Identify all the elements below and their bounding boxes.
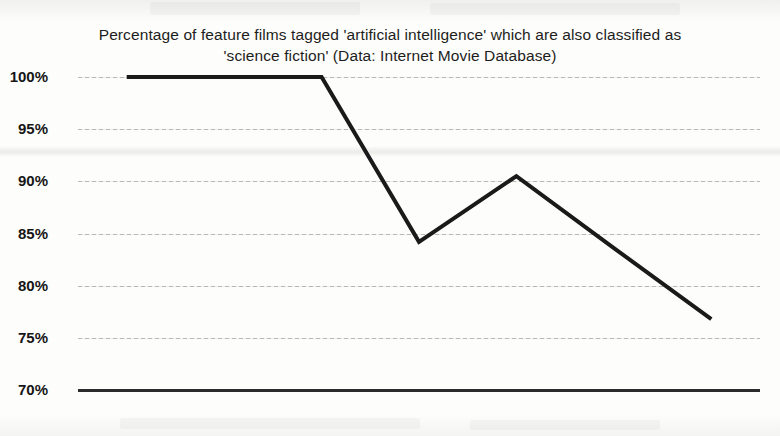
y-axis-tick-label: 95% xyxy=(0,120,48,137)
gridline xyxy=(78,286,760,287)
gridline xyxy=(78,234,760,235)
scan-artifact-ghost xyxy=(470,420,660,430)
y-axis-tick-label: 90% xyxy=(0,172,48,189)
scan-artifact-bottom xyxy=(0,414,780,436)
y-axis-tick-label: 75% xyxy=(0,329,48,346)
gridline xyxy=(78,338,760,339)
x-axis-baseline xyxy=(78,389,760,392)
scan-artifact-ghost xyxy=(150,2,360,15)
scan-artifact-top xyxy=(0,0,780,22)
scan-artifact-ghost xyxy=(120,418,420,429)
chart-root: Percentage of feature films tagged 'arti… xyxy=(0,0,780,436)
chart-title-line-2: 'science fiction' (Data: Internet Movie … xyxy=(0,45,780,66)
y-axis-tick-label: 70% xyxy=(0,381,48,398)
y-axis-tick-label: 80% xyxy=(0,277,48,294)
chart-title-line-1: Percentage of feature films tagged 'arti… xyxy=(0,24,780,45)
chart-title: Percentage of feature films tagged 'arti… xyxy=(0,24,780,66)
scan-artifact-ghost xyxy=(430,3,680,15)
gridline xyxy=(78,77,760,78)
y-axis-tick-label: 85% xyxy=(0,225,48,242)
gridline xyxy=(78,129,760,130)
gridline xyxy=(78,181,760,182)
plot-area: 100%95%90%85%80%75%70%1949–19581959–1968… xyxy=(78,77,760,390)
y-axis-tick-label: 100% xyxy=(0,68,48,85)
